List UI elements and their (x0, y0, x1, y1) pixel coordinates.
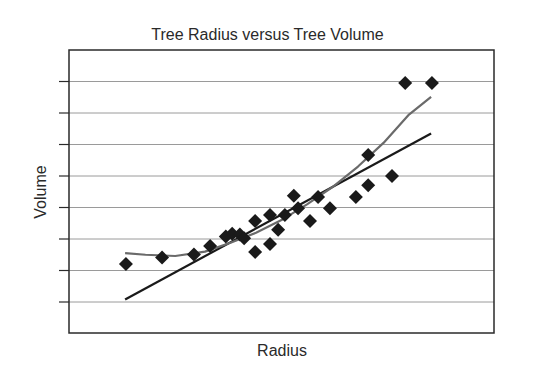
diamond-marker (248, 245, 262, 259)
diamond-marker (349, 190, 363, 204)
plot-frame (69, 50, 494, 333)
diamond-marker (361, 148, 375, 162)
diamond-marker (385, 169, 399, 183)
diamond-marker (287, 189, 301, 203)
fit-lines (125, 97, 431, 300)
diamond-marker (263, 208, 277, 222)
diamond-marker (361, 178, 375, 192)
diamond-marker (425, 76, 439, 90)
plot-area (0, 0, 535, 386)
diamond-marker (398, 76, 412, 90)
diamond-marker (303, 214, 317, 228)
diamond-marker (155, 251, 169, 265)
data-points (119, 76, 439, 271)
diamond-marker (323, 201, 337, 215)
linear-fit-line (125, 133, 431, 299)
diamond-marker (119, 257, 133, 271)
